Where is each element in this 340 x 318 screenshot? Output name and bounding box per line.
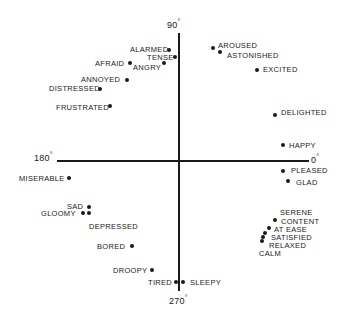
point-dot-happy — [281, 143, 285, 147]
point-dot-sad — [87, 205, 91, 209]
point-dot-excited — [255, 68, 259, 72]
axis-label-90-value: 90 — [167, 20, 177, 30]
point-dot-bored — [130, 244, 134, 248]
point-dot-afraid — [128, 61, 132, 65]
degree-symbol: ° — [50, 151, 53, 158]
point-dot-tense — [173, 55, 177, 59]
point-dot-annoyed — [125, 78, 129, 82]
point-dot-gloomy2 — [81, 211, 85, 215]
degree-symbol: ° — [316, 153, 319, 160]
point-label-tense: TENSE — [147, 53, 174, 62]
point-label-gloomy: GLOOMY — [41, 209, 76, 218]
point-label-serene: SERENE — [280, 208, 313, 217]
point-label-happy: HAPPY — [289, 141, 316, 150]
point-label-distressed: DISTRESSED — [49, 84, 100, 93]
point-dot-miserable — [67, 176, 71, 180]
axis-label-270: 270° — [169, 294, 188, 306]
horizontal-axis — [57, 160, 309, 162]
point-label-delighted: DELIGHTED — [281, 108, 327, 117]
circumplex-diagram: 90° 180° 0° 270° ALARMEDTENSEANGRYAFRAID… — [0, 0, 340, 318]
point-label-bored: BORED — [97, 242, 125, 251]
axis-label-180: 180° — [34, 151, 53, 163]
point-label-miserable: MISERABLE — [19, 174, 65, 183]
point-label-astonished: ASTONISHED — [227, 51, 279, 60]
degree-symbol: ° — [185, 294, 188, 301]
axis-label-90: 90° — [167, 18, 180, 30]
point-label-afraid: AFRAID — [95, 59, 124, 68]
point-label-droopy: DROOPY — [113, 266, 147, 275]
point-dot-gloomy — [87, 211, 91, 215]
point-label-pleased: PLEASED — [291, 166, 328, 175]
point-dot-droopy — [150, 268, 154, 272]
point-label-aroused: AROUSED — [218, 41, 257, 50]
point-label-glad: GLAD — [296, 178, 318, 187]
axis-label-0: 0° — [311, 153, 319, 165]
point-dot-angry — [162, 61, 166, 65]
point-dot-calm — [260, 239, 264, 243]
point-label-frustrated: FRUSTRATED — [56, 103, 109, 112]
point-dot-at_ease — [267, 226, 271, 230]
point-dot-content — [273, 218, 277, 222]
point-dot-sleepy — [181, 280, 185, 284]
axis-label-180-value: 180 — [34, 153, 50, 163]
point-dot-tired — [174, 280, 178, 284]
vertical-axis — [178, 33, 180, 291]
point-label-angry: ANGRY — [133, 63, 161, 72]
point-label-sleepy: SLEEPY — [190, 278, 221, 287]
point-dot-glad — [286, 179, 290, 183]
point-dot-astonished — [218, 50, 222, 54]
point-label-excited: EXCITED — [263, 65, 298, 74]
point-label-calm: CALM — [259, 249, 281, 258]
axis-label-270-value: 270 — [169, 296, 185, 306]
point-label-tired: TIRED — [148, 278, 172, 287]
point-dot-pleased — [281, 169, 285, 173]
degree-symbol: ° — [177, 18, 180, 25]
point-dot-delighted — [273, 113, 277, 117]
point-label-annoyed: ANNOYED — [81, 75, 120, 84]
point-dot-aroused — [211, 46, 215, 50]
point-label-depressed: DEPRESSED — [89, 222, 138, 231]
